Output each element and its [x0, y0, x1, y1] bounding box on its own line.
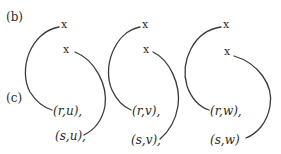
arc-v-top-to-r: [108, 27, 140, 110]
pair-s-u: (s,u),: [55, 130, 86, 142]
pairing-arcs: [0, 0, 281, 154]
arc-w-top-to-r: [185, 27, 221, 110]
mark-u-bottom: x: [63, 44, 69, 56]
pair-s-v: (s,v),: [131, 134, 161, 146]
arc-u-top-to-r: [25, 27, 59, 110]
panel-label-c: (c): [6, 92, 22, 104]
mark-w-bottom: x: [224, 46, 230, 58]
arc-w-bottom-to-s: [234, 56, 271, 138]
pair-r-v: (r,v),: [132, 105, 160, 117]
mark-v-top: x: [142, 19, 148, 31]
pair-s-w: (s,w): [210, 134, 240, 146]
mark-v-bottom: x: [143, 44, 149, 56]
arc-v-bottom-to-s: [153, 52, 178, 139]
mark-u-top: x: [61, 19, 67, 31]
pair-r-w: (r,w),: [210, 105, 242, 117]
mark-w-top: x: [223, 19, 229, 31]
panel-label-b: (b): [6, 11, 23, 23]
pair-r-u: (r,u),: [53, 105, 82, 117]
arc-u-bottom-to-s: [75, 52, 105, 135]
